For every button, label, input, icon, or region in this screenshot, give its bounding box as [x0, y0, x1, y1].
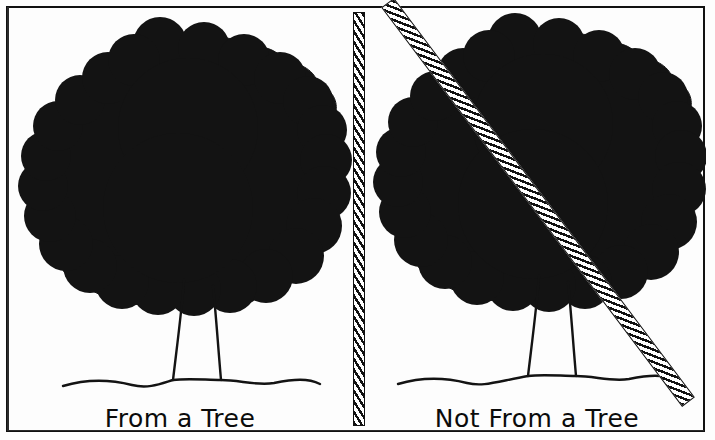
figure-root: From a Tree: [0, 0, 715, 440]
panel-from-a-tree: From a Tree: [8, 8, 352, 432]
caption-from-a-tree: From a Tree: [8, 404, 352, 433]
caption-not-from-a-tree: Not From a Tree: [368, 404, 706, 433]
ground-line-right: [398, 375, 675, 384]
tree-illustration-left: [8, 8, 352, 400]
vertical-hatched-divider: [353, 12, 365, 426]
ground-line-left: [63, 379, 320, 386]
tree-canopy-left: [18, 17, 352, 316]
